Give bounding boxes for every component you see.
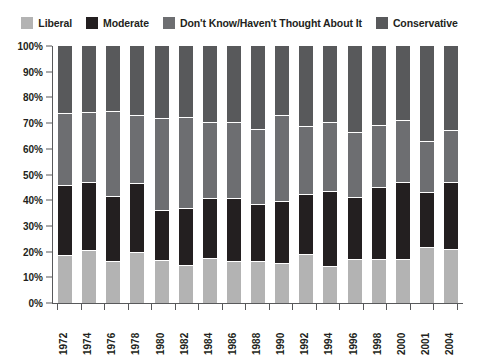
bar-segment[interactable] [203, 123, 217, 199]
bar-stack[interactable] [106, 46, 120, 303]
bar-segment[interactable] [348, 46, 362, 133]
bar-segment[interactable] [275, 46, 289, 116]
x-axis-tick-mark [339, 303, 340, 310]
bar-segment[interactable] [155, 119, 169, 210]
bar-segment[interactable] [396, 260, 410, 303]
bar-segment[interactable] [275, 202, 289, 264]
bar-segment[interactable] [444, 183, 458, 250]
bar-segment[interactable] [227, 262, 241, 303]
bar-segment[interactable] [155, 211, 169, 262]
bar-segment[interactable] [275, 116, 289, 202]
x-axis-tick-mark [292, 303, 293, 310]
bar-segment[interactable] [420, 142, 434, 193]
bar-segment[interactable] [82, 183, 96, 251]
x-axis-tick-mark [151, 303, 152, 310]
bar-segment[interactable] [203, 199, 217, 258]
bar-segment[interactable] [106, 46, 120, 112]
bar-segment[interactable] [58, 46, 72, 114]
bar-segment[interactable] [251, 205, 265, 262]
bar-segment[interactable] [155, 261, 169, 303]
bar-segment[interactable] [420, 193, 434, 249]
bar-segment[interactable] [58, 186, 72, 256]
y-axis-tick-label: 0% [29, 298, 43, 309]
bar-stack[interactable] [275, 46, 289, 303]
bar-segment[interactable] [227, 123, 241, 199]
bar-segment[interactable] [444, 250, 458, 303]
bar-segment[interactable] [372, 188, 386, 260]
bar-segment[interactable] [420, 46, 434, 142]
bar-segment[interactable] [58, 256, 72, 303]
x-axis-tick-mark [410, 303, 411, 310]
bar-segment[interactable] [299, 195, 313, 254]
x-axis-label: 2001 [419, 313, 433, 355]
bar-stack[interactable] [82, 46, 96, 303]
bar-stack[interactable] [130, 46, 144, 303]
bar-segment[interactable] [348, 260, 362, 303]
bar-stack[interactable] [420, 46, 434, 303]
bar-stack[interactable] [396, 46, 410, 303]
bar-segment[interactable] [251, 130, 265, 206]
bar-segment[interactable] [396, 183, 410, 260]
x-axis-label: 2000 [395, 313, 409, 355]
bar-stack[interactable] [58, 46, 72, 303]
bar-segment[interactable] [130, 46, 144, 116]
bar-segment[interactable] [420, 248, 434, 303]
bar-stack[interactable] [179, 46, 193, 303]
bar-segment[interactable] [299, 255, 313, 303]
x-axis-label: 1978 [129, 313, 143, 355]
bar-segment[interactable] [106, 112, 120, 197]
bar-stack[interactable] [323, 46, 337, 303]
bar-stack[interactable] [227, 46, 241, 303]
bar-segment[interactable] [58, 114, 72, 186]
bar-segment[interactable] [323, 46, 337, 123]
bar-segment[interactable] [372, 126, 386, 188]
bar-segment[interactable] [323, 192, 337, 268]
bar-segment[interactable] [396, 46, 410, 121]
bar-segment[interactable] [396, 121, 410, 183]
bar-segment[interactable] [348, 133, 362, 198]
bar-segment[interactable] [179, 46, 193, 118]
bar-segment[interactable] [130, 116, 144, 184]
bar-stack[interactable] [372, 46, 386, 303]
bar-stack[interactable] [299, 46, 313, 303]
bar-segment[interactable] [106, 197, 120, 263]
bar-segment[interactable] [251, 262, 265, 303]
bar-segment[interactable] [227, 199, 241, 262]
bar-segment[interactable] [179, 266, 193, 303]
bar-stack[interactable] [348, 46, 362, 303]
bar-segment[interactable] [444, 131, 458, 183]
bar-segment[interactable] [372, 46, 386, 126]
x-axis-ticks [52, 303, 462, 313]
bar-stack[interactable] [444, 46, 458, 303]
bar-segment[interactable] [227, 46, 241, 123]
bar-segment[interactable] [323, 267, 337, 303]
bar-segment[interactable] [179, 209, 193, 266]
bar-segment[interactable] [372, 260, 386, 303]
bar-stack[interactable] [155, 46, 169, 303]
bar-segment[interactable] [82, 46, 96, 113]
bar-stack[interactable] [251, 46, 265, 303]
x-axis-label: 1998 [371, 313, 385, 355]
bar-segment[interactable] [275, 264, 289, 303]
bar-segment[interactable] [444, 46, 458, 131]
bar-segment[interactable] [82, 251, 96, 303]
bar-segment[interactable] [251, 46, 265, 130]
y-axis-tick-label: 80% [23, 92, 43, 103]
bar-segment[interactable] [82, 113, 96, 183]
bar-segment[interactable] [323, 123, 337, 191]
x-axis-label-text: 1992 [298, 313, 312, 355]
bar-segment[interactable] [130, 184, 144, 254]
bar-segment[interactable] [106, 262, 120, 303]
bar-segment[interactable] [130, 253, 144, 303]
bar-segment[interactable] [348, 198, 362, 260]
bar-segment[interactable] [299, 46, 313, 127]
x-axis-label: 1976 [105, 313, 119, 355]
bar-segment[interactable] [155, 46, 169, 119]
bar-stack[interactable] [203, 46, 217, 303]
bar-segment[interactable] [299, 127, 313, 195]
bar-segment[interactable] [203, 46, 217, 123]
bar-segment[interactable] [203, 259, 217, 303]
x-axis-tick-mark [386, 303, 387, 310]
x-axis-label-text: 1972 [57, 313, 71, 355]
bar-segment[interactable] [179, 118, 193, 209]
